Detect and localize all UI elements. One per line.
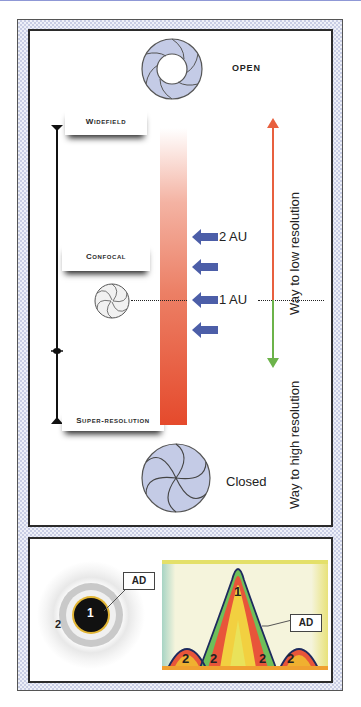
profile-side-label: 2 (210, 651, 217, 666)
mode-range-line (56, 128, 58, 423)
profile-side-label: 2 (287, 651, 294, 666)
confocal-label: Confocal (62, 243, 150, 271)
low-resolution-arrow-icon (267, 118, 279, 304)
profile-side-label: 2 (259, 651, 266, 666)
1au-dotted-line-left (131, 300, 187, 301)
marker-arrow-icon (192, 322, 218, 338)
airy-disk-ring-label: 2 (55, 618, 61, 630)
range-top-marker-icon (51, 124, 63, 132)
iris-closed-icon (140, 442, 212, 514)
2au-label: 2 AU (219, 229, 247, 244)
airy-disk-center-label: 1 (87, 606, 94, 620)
high-resolution-arrow-icon (267, 300, 279, 370)
pinhole-size-gradient-bar (160, 128, 187, 425)
iris-1au-icon (93, 282, 131, 320)
profile-peak-label: 1 (234, 584, 241, 599)
widefield-label: Widefield (65, 109, 147, 135)
1au-label: 1 AU (219, 292, 249, 307)
top-divider-line (0, 0, 361, 1)
marker-arrow-icon (192, 259, 218, 275)
pinhole-open-label: OPEN (232, 63, 261, 73)
profile-side-label: 2 (182, 651, 189, 666)
airy-disk-callout-label: AD (123, 572, 155, 590)
super-resolution-label: Super-resolution (62, 411, 164, 431)
marker-arrow-1au-icon (192, 292, 218, 308)
high-resolution-label: Way to high resolution (287, 381, 302, 509)
marker-arrow-2au-icon (192, 229, 218, 245)
pinhole-closed-label: Closed (226, 474, 266, 489)
iris-open-icon (140, 37, 204, 101)
range-mid-marker-icon (51, 346, 63, 356)
low-resolution-label: Way to low resolution (287, 192, 302, 315)
profile-callout-label: AD (290, 614, 322, 632)
